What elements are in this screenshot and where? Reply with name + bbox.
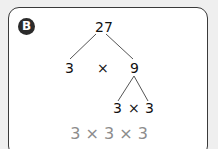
- multiply-sign: ×: [97, 61, 109, 75]
- multiply-sign-2: ×: [128, 101, 140, 115]
- tree-root-27: 27: [95, 20, 113, 34]
- prime-factorization-result: 3 × 3 × 3: [0, 126, 218, 142]
- tree-node-3: 3: [65, 61, 74, 75]
- branch-27-to-9: [106, 34, 133, 59]
- tree-node-9: 9: [130, 61, 139, 75]
- tree-leaf-3-left: 3: [113, 101, 122, 115]
- branch-27-to-3: [70, 34, 96, 59]
- tree-leaf-3-right: 3: [145, 101, 154, 115]
- branch-9-to-3-right: [134, 76, 148, 101]
- branch-9-to-3-left: [118, 76, 134, 101]
